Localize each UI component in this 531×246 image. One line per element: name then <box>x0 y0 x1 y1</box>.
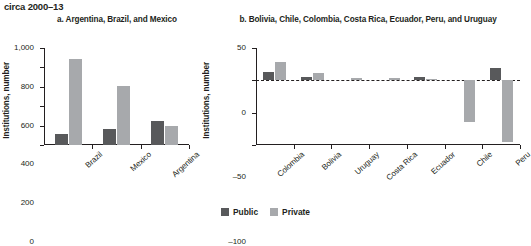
x-axis-label-mexico: Mexico <box>128 150 152 173</box>
y-tick-label: 50 <box>237 44 246 52</box>
bar-private-brazil <box>69 59 82 145</box>
y-tick: –100 <box>252 145 256 146</box>
bar-public-ecuador <box>414 77 425 80</box>
x-axis-label-uruguay: Uruguay <box>353 150 381 176</box>
y-tick-label: 800 <box>21 83 34 91</box>
x-tick <box>407 145 408 149</box>
x-axis-label-ecuador: Ecuador <box>429 150 457 176</box>
bar-private-mexico <box>117 86 130 145</box>
bar-private-ecuador <box>426 79 437 80</box>
panel-a-y-axis <box>44 48 45 145</box>
y-tick-label: 200 <box>21 199 34 207</box>
bar-public-peru <box>490 68 501 80</box>
y-tick: 600 <box>40 87 44 88</box>
panel-b-plot-area: –100–50050ColombiaBoliviaUruguayCosta Ri… <box>256 48 520 145</box>
bar-private-bolivia <box>313 73 324 81</box>
bar-public-mexico <box>103 129 116 145</box>
y-tick-label: 600 <box>21 122 34 130</box>
bar-private-uruguay <box>351 78 362 81</box>
legend-label-public: Public <box>233 207 258 217</box>
x-tick <box>141 145 142 149</box>
x-axis-label-colombia: Colombia <box>275 150 306 179</box>
chart-panel-b: b. Bolivia, Chile, Colombia, Costa Rica,… <box>200 0 531 200</box>
x-tick <box>482 145 483 149</box>
x-tick <box>294 145 295 149</box>
y-tick: 1,000 <box>40 48 44 49</box>
bar-private-peru <box>502 80 513 142</box>
panel-b-y-axis <box>256 48 257 145</box>
x-axis-label-costa-rica: Costa Rica <box>384 150 418 182</box>
chart-panel-a: a. Argentina, Brazil, and Mexico Institu… <box>0 0 200 200</box>
y-tick-label: 0 <box>242 109 246 117</box>
y-tick-label: –50 <box>233 173 246 181</box>
y-tick: 800 <box>40 67 44 68</box>
y-tick-label: 1,000 <box>14 44 34 52</box>
bar-public-brazil <box>55 134 68 145</box>
y-tick: –50 <box>252 113 256 114</box>
chart-legend: Public Private <box>0 207 531 217</box>
legend-item-public: Public <box>221 207 258 217</box>
y-tick-label: 0 <box>30 238 34 246</box>
bar-private-chile <box>464 80 475 122</box>
x-tick <box>520 145 521 149</box>
bar-private-colombia <box>275 62 286 80</box>
x-axis-label-bolivia: Bolivia <box>320 150 343 172</box>
x-tick <box>189 145 190 149</box>
x-axis-label-peru: Peru <box>514 150 531 168</box>
x-tick <box>445 145 446 149</box>
panel-a-title: a. Argentina, Brazil, and Mexico <box>42 14 192 25</box>
legend-swatch-private-icon <box>270 208 278 216</box>
y-tick: 200 <box>40 126 44 127</box>
legend-swatch-public-icon <box>221 208 229 216</box>
x-axis-label-chile: Chile <box>475 150 494 169</box>
panel-a-y-axis-label: Institutions, number <box>2 62 11 139</box>
panel-b-y-axis-label: Institutions, number <box>202 62 211 139</box>
x-tick <box>369 145 370 149</box>
panel-b-title: b. Bolivia, Chile, Colombia, Costa Rica,… <box>218 14 518 25</box>
panel-a-plot-area: 02004006008001,000BrazilMexicoArgentina <box>44 48 189 145</box>
y-tick: 400 <box>40 106 44 107</box>
x-tick <box>331 145 332 149</box>
legend-item-private: Private <box>270 207 310 217</box>
y-tick-label: 400 <box>21 160 34 168</box>
bar-public-colombia <box>263 72 274 80</box>
bar-private-argentina <box>165 126 178 145</box>
y-tick: 50 <box>252 48 256 49</box>
y-tick-label: –100 <box>228 238 246 246</box>
y-tick: 0 <box>40 145 44 146</box>
bar-public-argentina <box>151 121 164 145</box>
x-tick <box>92 145 93 149</box>
legend-label-private: Private <box>282 207 310 217</box>
bar-private-costa-rica <box>389 78 400 80</box>
x-axis-label-argentina: Argentina <box>170 150 201 179</box>
panel-b-x-axis <box>256 144 520 145</box>
zero-line <box>256 80 520 81</box>
x-axis-label-brazil: Brazil <box>84 150 104 170</box>
bar-public-bolivia <box>301 77 312 80</box>
